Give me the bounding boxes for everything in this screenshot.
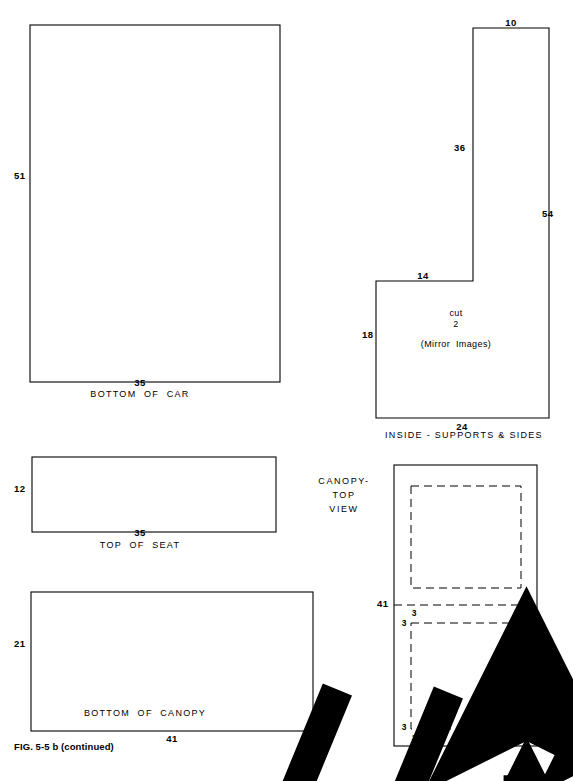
bottom-of-car-width-dimension: 35 [134,377,146,388]
canopy-inset-label-upper-left-outer: 3 [412,608,417,619]
canopy-top-view-height-dimension: 41 [377,598,389,609]
inside-supports-title: INSIDE - SUPPORTS & SIDES [385,430,543,441]
top-of-seat-title: TOP OF SEAT [100,540,180,551]
inside-supports-cut-note: cut [449,308,462,319]
canopy-inset-label-lower-right-inner: 3 [514,733,519,744]
grain-direction-arrow-icon [240,382,260,399]
canopy-inset-label-lower-right-outer: 3 [525,722,530,733]
canopy-top-view-title-line-1: CANOPY- [318,474,369,488]
inside-supports-quantity-note: 2 [453,319,458,330]
inside-supports-top-dimension: 10 [505,17,517,28]
inside-supports-mirror-note: (Mirror Images) [421,339,491,350]
canopy-inset-label-lower-left-inner: 3 [412,733,417,744]
bottom-of-car-title: BOTTOM OF CAR [90,389,189,400]
top-of-seat-width-dimension: 35 [134,527,146,538]
figure-page: 51 35 BOTTOM OF CAR 10 36 54 14 18 24 cu… [0,0,573,781]
grain-direction-arrow-icon [291,733,311,750]
inside-supports-left-vertical-dimension: 18 [362,329,374,340]
grain-direction-arrow-icon [366,524,386,541]
inside-supports-and-sides-outline [376,28,549,418]
canopy-inset-label-upper-right-outer: 3 [514,608,519,619]
bottom-of-canopy-title: BOTTOM OF CANOPY [84,708,206,719]
figure-caption: FIG. 5-5 b (continued) [14,741,114,752]
bottom-of-canopy-width-dimension: 41 [166,733,178,744]
canopy-inset-label-lower-left-outer: 3 [402,722,407,733]
top-of-seat-height-dimension: 12 [14,483,26,494]
bottom-of-canopy-height-dimension: 21 [14,638,26,649]
canopy-inset-label-upper-left-inner: 3 [402,618,407,629]
inside-supports-inner-vertical-dimension: 36 [454,142,466,153]
grain-direction-arrow-icon [351,385,371,402]
canopy-top-view-width-dimension: 21 [459,749,471,760]
bottom-of-car-outline [30,25,280,382]
bottom-of-car-height-dimension: 51 [14,170,26,181]
grain-direction-arrow-icon [240,533,260,550]
canopy-inset-label-upper-right-inner: 3 [525,618,530,629]
inside-supports-step-top-dimension: 14 [417,270,429,281]
canopy-top-view-title-line-2: TOP [332,488,355,502]
inside-supports-right-vertical-dimension: 54 [542,208,554,219]
canopy-top-view-title-line-3: VIEW [329,502,358,516]
